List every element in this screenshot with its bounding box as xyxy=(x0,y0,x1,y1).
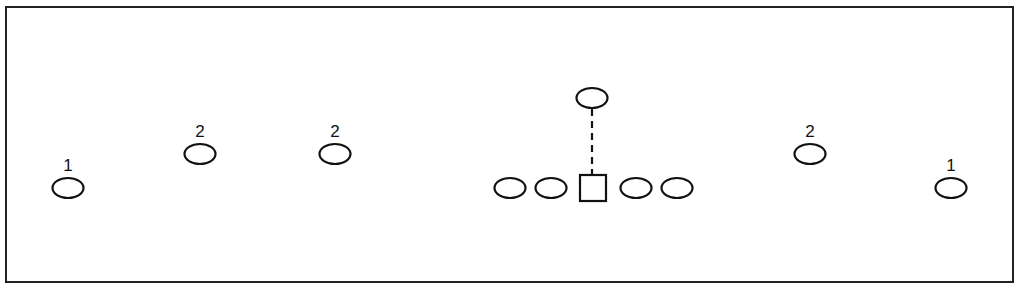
ellipse-icon xyxy=(185,144,216,164)
player-center xyxy=(580,175,606,201)
ellipse-icon xyxy=(621,178,652,198)
formation-diagram: 12221 xyxy=(0,0,1019,294)
player-slot-right: 2 xyxy=(795,122,826,164)
player-number-label: 2 xyxy=(330,122,339,141)
player-wide-left: 1 xyxy=(53,156,84,198)
player-slot-left-outer: 2 xyxy=(185,122,216,164)
player-line-left-guard xyxy=(536,178,567,198)
player-quarterback xyxy=(577,88,608,108)
player-slot-left-inner: 2 xyxy=(320,122,351,164)
square-icon xyxy=(580,175,606,201)
ellipse-icon xyxy=(536,178,567,198)
ellipse-icon xyxy=(577,88,608,108)
ellipse-icon xyxy=(936,178,967,198)
ellipse-icon xyxy=(320,144,351,164)
diagram-frame xyxy=(6,7,1013,282)
player-number-label: 1 xyxy=(63,156,72,175)
player-number-label: 2 xyxy=(805,122,814,141)
ellipse-icon xyxy=(795,144,826,164)
player-line-left-tackle xyxy=(495,178,526,198)
player-line-right-tackle xyxy=(662,178,693,198)
ellipse-icon xyxy=(662,178,693,198)
player-line-right-guard xyxy=(621,178,652,198)
player-number-label: 1 xyxy=(946,156,955,175)
player-wide-right: 1 xyxy=(936,156,967,198)
ellipse-icon xyxy=(495,178,526,198)
players-layer: 12221 xyxy=(53,88,967,201)
ellipse-icon xyxy=(53,178,84,198)
player-number-label: 2 xyxy=(195,122,204,141)
